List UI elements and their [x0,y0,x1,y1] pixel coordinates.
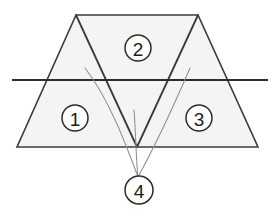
figure-container: 1 2 3 4 [0,0,275,218]
callout-region-4: 4 [125,176,153,204]
geometry-diagram: 1 2 3 4 [0,0,275,218]
callout-region-1: 1 [62,105,88,131]
callout-4-label: 4 [134,181,145,202]
callout-region-3: 3 [186,105,212,131]
callout-region-2: 2 [125,35,151,61]
callout-3-label: 3 [194,109,205,130]
callout-2-label: 2 [133,39,144,60]
callout-1-label: 1 [70,109,81,130]
